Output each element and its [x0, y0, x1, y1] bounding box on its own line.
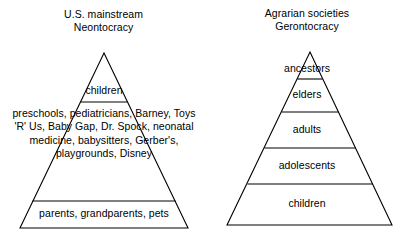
pyramid-agrarian-societies: Agrarian societies Gerontocracy ancestor… — [207, 0, 407, 238]
pyramid-right-outline — [227, 52, 392, 225]
pyramid-comparison-diagram: U.S. mainstream Neontocracy children pre… — [0, 0, 407, 238]
pyramid-us-mainstream: U.S. mainstream Neontocracy children pre… — [0, 0, 207, 238]
pyramid-left-outline — [20, 53, 188, 228]
pyramid-right-shape — [207, 0, 407, 238]
pyramid-left-shape — [0, 0, 207, 238]
